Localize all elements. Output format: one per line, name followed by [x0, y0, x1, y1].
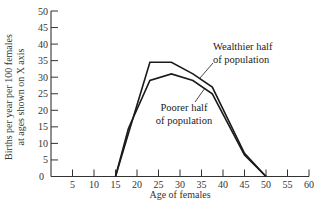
y-axis-title-line-2: at ages shown on X axis [15, 48, 26, 145]
y-axis-title-line-1: Births per year per 100 females [3, 34, 14, 160]
x-tick-label: 55 [283, 179, 293, 190]
y-tick-label: 0 [39, 171, 44, 182]
x-tick-label: 45 [240, 179, 250, 190]
y-tick-label: 30 [38, 72, 48, 83]
leader-line-wealthier [200, 63, 213, 78]
x-tick-label: 40 [218, 179, 228, 190]
x-tick-label: 10 [89, 179, 99, 190]
leader-line-poorer [195, 88, 205, 102]
fertility-chart: Births per year per 100 femalesat ages s… [0, 0, 320, 210]
x-tick-label: 5 [70, 179, 75, 190]
annotation-wealthier-line-2: of population [213, 54, 270, 65]
y-tick-label: 40 [38, 39, 48, 50]
y-axis-title: Births per year per 100 femalesat ages s… [3, 34, 26, 160]
annotation-wealthier-line-1: Wealthier half [213, 41, 273, 52]
y-tick-label: 5 [43, 154, 48, 165]
series-annotations: Wealthier halfof populationPoorer halfof… [156, 41, 273, 126]
y-axis-ticks: 05101520253035404550 [38, 6, 58, 183]
y-tick-label: 10 [38, 138, 48, 149]
x-tick-label: 15 [111, 179, 121, 190]
x-tick-label: 60 [304, 179, 314, 190]
annotation-poorer-line-2: of population [156, 115, 213, 126]
y-tick-label: 50 [38, 6, 48, 17]
y-tick-label: 35 [38, 55, 48, 66]
y-tick-label: 25 [38, 88, 48, 99]
y-tick-label: 20 [38, 105, 48, 116]
annotation-poorer-line-1: Poorer half [161, 102, 208, 113]
x-tick-label: 50 [261, 179, 271, 190]
x-axis-ticks: 51015202530354045505560 [70, 170, 314, 191]
x-tick-label: 20 [132, 179, 142, 190]
x-axis-title: Age of females [149, 189, 210, 200]
y-tick-label: 45 [38, 22, 48, 33]
y-tick-label: 15 [38, 121, 48, 132]
axes [51, 11, 309, 177]
